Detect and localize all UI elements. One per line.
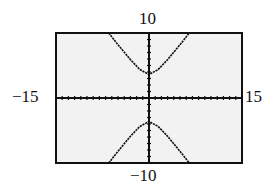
graph-plot (0, 0, 279, 187)
